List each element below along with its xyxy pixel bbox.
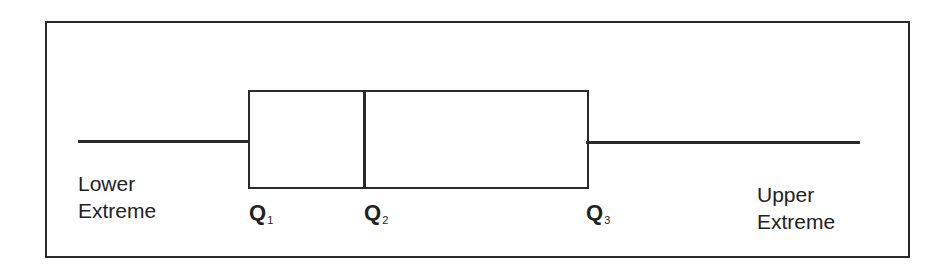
upper-extreme-line2: Extreme bbox=[757, 208, 835, 235]
q1-subscript: 1 bbox=[267, 214, 273, 226]
interquartile-box bbox=[248, 90, 589, 189]
upper-extreme-label: Upper Extreme bbox=[757, 181, 835, 235]
q3-subscript: 3 bbox=[604, 214, 610, 226]
lower-extreme-line2: Extreme bbox=[78, 197, 156, 224]
q1-label: Q1 bbox=[249, 200, 273, 226]
q2-letter: Q bbox=[364, 200, 381, 225]
upper-whisker-line bbox=[586, 141, 860, 144]
q2-label: Q2 bbox=[364, 200, 388, 226]
q3-label: Q3 bbox=[586, 200, 610, 226]
upper-extreme-line1: Upper bbox=[757, 181, 835, 208]
q2-subscript: 2 bbox=[382, 214, 388, 226]
lower-whisker-line bbox=[78, 140, 249, 143]
q3-letter: Q bbox=[586, 200, 603, 225]
q1-letter: Q bbox=[249, 200, 266, 225]
lower-extreme-line1: Lower bbox=[78, 170, 156, 197]
median-line bbox=[363, 90, 366, 189]
lower-extreme-label: Lower Extreme bbox=[78, 170, 156, 224]
